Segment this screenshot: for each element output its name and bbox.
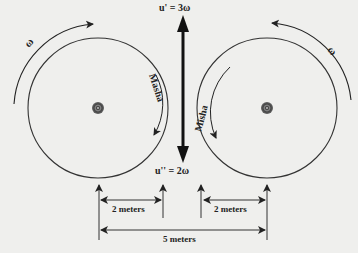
right-wheel [197, 38, 337, 178]
velocity-down-label: u'' = 2ω [155, 165, 189, 176]
right-dimension-label: 2 meters [214, 204, 247, 214]
left-hub-icon [92, 102, 104, 114]
right-hub-icon [261, 102, 273, 114]
velocity-up-label: u' = 3ω [159, 2, 190, 13]
left-wheel [28, 38, 168, 178]
right-omega-label: ω [325, 44, 339, 58]
misha-arrow-icon [210, 67, 230, 138]
left-dimension-label: 2 meters [112, 204, 145, 214]
arrow-down-icon [177, 146, 189, 163]
misha-label: Misha [192, 104, 210, 133]
left-omega-label: ω [21, 35, 35, 49]
velocity-arrow [177, 15, 189, 163]
total-dimension-label: 5 meters [163, 234, 196, 244]
right-rotation-arrow-icon [272, 23, 351, 100]
wheels-diagram: ω ω Masha Misha u' = 3ω u'' = 2ω 2 meter… [0, 0, 358, 253]
arrow-up-icon [177, 15, 189, 32]
masha-label: Masha [147, 72, 166, 103]
